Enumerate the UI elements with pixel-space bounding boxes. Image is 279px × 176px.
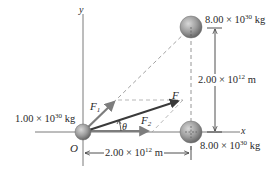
force-subscript: 1 bbox=[97, 106, 101, 114]
mass-mantissa: 1.00 bbox=[15, 113, 33, 124]
angle-theta-label: θ bbox=[122, 122, 127, 132]
net-force-label: F bbox=[172, 90, 179, 101]
bottom-mass-label: 8.00 × 1030 kg bbox=[200, 140, 260, 152]
bottom-mass-sphere bbox=[180, 121, 202, 143]
force-subscript: 2 bbox=[148, 120, 152, 128]
distance-base: 10 bbox=[135, 147, 146, 158]
mass-times: × bbox=[221, 140, 227, 151]
force-f2-label: F2 bbox=[141, 115, 151, 128]
x-axis-label: x bbox=[241, 126, 245, 136]
mass-mantissa: 8.00 bbox=[200, 140, 218, 151]
top-mass-label: 8.00 × 1030 kg bbox=[205, 14, 265, 26]
distance-times: × bbox=[219, 74, 225, 85]
distance-times: × bbox=[126, 147, 132, 158]
distance-exponent: 12 bbox=[145, 146, 152, 154]
mass-base: 10 bbox=[230, 140, 241, 151]
mass-unit: kg bbox=[250, 140, 261, 151]
y-axis-label: y bbox=[79, 5, 83, 15]
force-symbol: F bbox=[141, 114, 148, 126]
mass-exponent: 30 bbox=[240, 139, 247, 147]
mass-times: × bbox=[36, 113, 42, 124]
force-f1-label: F1 bbox=[90, 101, 100, 114]
distance-unit: m bbox=[248, 74, 256, 85]
mass-exponent: 30 bbox=[55, 112, 62, 120]
vertical-distance-label: 2.00 × 1012 m bbox=[197, 74, 257, 86]
origin-label: O bbox=[70, 143, 78, 154]
mass-unit: kg bbox=[255, 14, 266, 25]
mass-base: 10 bbox=[235, 14, 246, 25]
mass-times: × bbox=[226, 14, 232, 25]
distance-base: 10 bbox=[228, 74, 239, 85]
distance-unit: m bbox=[155, 147, 163, 158]
origin-mass-label: 1.00 × 1030 kg bbox=[15, 113, 75, 125]
distance-exponent: 12 bbox=[238, 73, 245, 81]
origin-mass-sphere bbox=[75, 124, 91, 140]
mass-base: 10 bbox=[45, 113, 56, 124]
mass-mantissa: 8.00 bbox=[205, 14, 223, 25]
mass-exponent: 30 bbox=[245, 13, 252, 21]
distance-mantissa: 2.00 bbox=[105, 147, 123, 158]
horizontal-distance-label: 2.00 × 1012 m bbox=[104, 147, 164, 159]
force-symbol: F bbox=[90, 100, 97, 112]
distance-mantissa: 2.00 bbox=[198, 74, 216, 85]
mass-unit: kg bbox=[65, 113, 76, 124]
